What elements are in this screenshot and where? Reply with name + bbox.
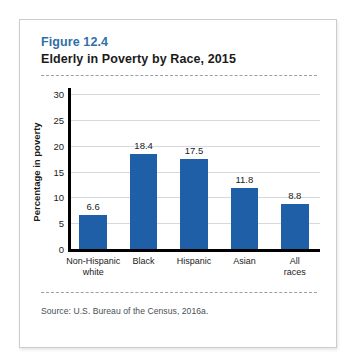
x-axis-category-label: Non-Hispanic white (66, 256, 120, 278)
y-axis-tick-label: 5 (59, 218, 64, 229)
y-axis-tick-label: 20 (53, 140, 64, 151)
y-axis-tick-label: 30 (53, 89, 64, 100)
x-axis-category-label: Asian (233, 256, 256, 267)
bar (231, 188, 259, 249)
x-axis-category-label: Hispanic (177, 256, 212, 267)
y-axis-title: Percentage in poverty (31, 114, 45, 230)
x-axis-category-label: All races (282, 256, 307, 278)
bar (130, 154, 158, 249)
y-axis-tick-label: 0 (59, 244, 64, 255)
x-axis-line (68, 249, 320, 252)
bar-chart: Percentage in poverty 0510152025306.6Non… (28, 88, 330, 288)
figure-card: Figure 12.4 Elderly in Poverty by Race, … (19, 19, 337, 348)
y-axis-tick-label: 10 (53, 192, 64, 203)
figure-title: Elderly in Poverty by Race, 2015 (41, 52, 236, 66)
divider-top (41, 75, 317, 76)
bar (180, 159, 208, 249)
figure-number: Figure 12.4 (41, 35, 108, 49)
y-axis-tick-label: 25 (53, 114, 64, 125)
x-axis-category-label: Black (133, 256, 155, 267)
gridline (71, 94, 320, 95)
plot-area: 0510152025306.6Non-Hispanic white18.4Bla… (68, 88, 320, 254)
bar-value-label: 8.8 (288, 190, 301, 201)
bar (79, 215, 107, 249)
y-axis-line (68, 88, 71, 251)
bar-value-label: 17.5 (185, 145, 204, 156)
divider-bottom (41, 292, 317, 293)
bar (281, 204, 309, 249)
y-axis-tick-label: 15 (53, 166, 64, 177)
bar-value-label: 6.6 (87, 201, 100, 212)
gridline (71, 120, 320, 121)
bar-value-label: 18.4 (134, 140, 153, 151)
source-note: Source: U.S. Bureau of the Census, 2016a… (41, 306, 208, 316)
bar-value-label: 11.8 (235, 174, 253, 185)
